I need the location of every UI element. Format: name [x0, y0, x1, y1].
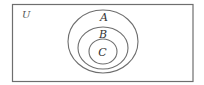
venn-diagram: U A B C [0, 0, 204, 85]
universe-label: U [22, 9, 31, 20]
set-c-label: C [98, 46, 107, 59]
set-a-label: A [99, 11, 108, 24]
